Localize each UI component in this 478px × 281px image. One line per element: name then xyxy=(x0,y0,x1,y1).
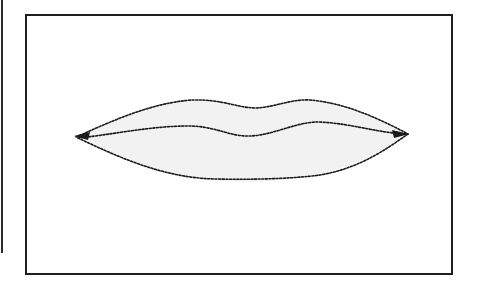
lips-shading xyxy=(78,100,407,182)
lips-illustration xyxy=(0,0,478,281)
